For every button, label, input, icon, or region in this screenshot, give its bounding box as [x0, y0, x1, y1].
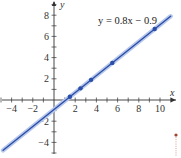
x-tick-label: 10 [155, 103, 165, 114]
data-point [89, 78, 93, 82]
y-axis-label: y [59, 0, 65, 10]
regression-line [3, 16, 170, 150]
data-point [78, 86, 82, 90]
y-tick-label: 8 [44, 10, 49, 21]
y-tick-label: 6 [44, 31, 49, 42]
y-tick-label: −4 [38, 137, 49, 148]
y-tick-label: 2 [44, 73, 49, 84]
x-axis-arrow-icon [171, 98, 176, 102]
y-axis-arrow-icon [52, 1, 56, 6]
data-point [110, 61, 114, 65]
line-chart: −4−2246810−4−22468 y = 0.8x − 0.9 x y [0, 0, 181, 158]
y-tick-label: 4 [44, 52, 49, 63]
x-tick-label: 4 [94, 103, 99, 114]
corner-marker [174, 133, 177, 156]
equation-label: y = 0.8x − 0.9 [98, 15, 157, 26]
data-point [68, 95, 72, 99]
x-tick-label: −4 [6, 103, 17, 114]
x-tick-label: 6 [115, 103, 120, 114]
x-tick-label: 2 [73, 103, 78, 114]
data-point [153, 27, 157, 31]
x-axis-label: x [169, 87, 175, 98]
x-tick-label: −2 [27, 103, 38, 114]
x-tick-label: 8 [136, 103, 141, 114]
plot-series [3, 16, 170, 150]
